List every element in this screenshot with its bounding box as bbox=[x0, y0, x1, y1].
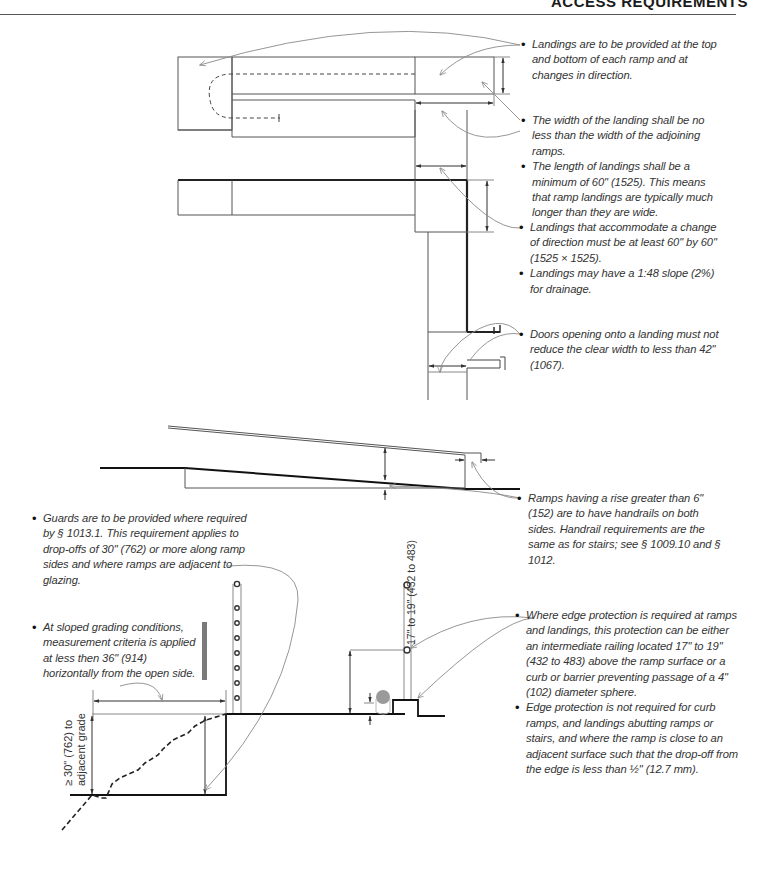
note-text: At sloped grading conditions, measuremen… bbox=[33, 620, 203, 682]
drop-off-dimension-label: ≥ 30" (762) to adjacent grade bbox=[62, 713, 88, 786]
dim-line-1: ≥ 30" (762) to bbox=[62, 713, 75, 786]
note-doors: Doors opening onto a landing must not re… bbox=[520, 327, 720, 373]
plan-switchback-ramp bbox=[178, 57, 510, 137]
note-text: Guards are to be provided where required… bbox=[33, 511, 253, 588]
note-sloped-grading: At sloped grading conditions, measuremen… bbox=[33, 620, 203, 682]
note-text: Ramps having a rise greater than 6" (152… bbox=[518, 491, 728, 568]
note-landing-width: The width of the landing shall be no les… bbox=[522, 113, 722, 221]
section-edge-protection bbox=[330, 582, 445, 725]
note-edge-protection: Where edge protection is required at ram… bbox=[516, 608, 741, 777]
note-guards: Guards are to be provided where required… bbox=[33, 511, 253, 588]
section-guard-grading bbox=[62, 581, 405, 830]
plan-turn-landing bbox=[178, 110, 505, 400]
note-text: Landings may have a 1:48 slope (2%) for … bbox=[520, 266, 725, 297]
note-text: Landings that accommodate a change of di… bbox=[520, 220, 725, 266]
note-text: Where edge protection is required at ram… bbox=[516, 608, 741, 700]
note-landings-top-bottom: Landings are to be provided at the top a… bbox=[522, 37, 722, 83]
dim-text: 17" to 19" (432 to 483) bbox=[405, 540, 417, 645]
dim-line-2: adjacent grade bbox=[75, 713, 88, 786]
note-text: Landings are to be provided at the top a… bbox=[522, 37, 722, 83]
railing-height-dimension-label: 17" to 19" (432 to 483) bbox=[405, 540, 418, 645]
note-text: The length of landings shall be a minimu… bbox=[522, 159, 722, 221]
note-text: Doors opening onto a landing must not re… bbox=[520, 327, 720, 373]
note-change-direction: Landings that accommodate a change of di… bbox=[520, 220, 725, 297]
note-text: Edge protection is not required for curb… bbox=[516, 700, 741, 777]
note-text: The width of the landing shall be no les… bbox=[522, 113, 722, 159]
section-ramp-handrail bbox=[100, 426, 520, 500]
note-handrails: Ramps having a rise greater than 6" (152… bbox=[518, 491, 728, 568]
